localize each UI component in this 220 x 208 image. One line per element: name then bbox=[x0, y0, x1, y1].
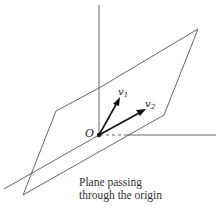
origin-point bbox=[97, 133, 101, 137]
vector-v2-label: v2 bbox=[145, 98, 156, 111]
caption-line-1: Plane passing bbox=[79, 176, 142, 189]
plane-outline bbox=[23, 29, 198, 195]
vector-v2-arrowhead bbox=[136, 109, 146, 116]
vector-v1-arrowhead bbox=[113, 97, 120, 106]
vector-v1-label: v1 bbox=[118, 86, 128, 99]
caption-line-2: through the origin bbox=[79, 189, 162, 202]
origin-label: O bbox=[85, 127, 94, 140]
plane-diagram: O v1 v2 Plane passing through the origin bbox=[0, 0, 220, 208]
